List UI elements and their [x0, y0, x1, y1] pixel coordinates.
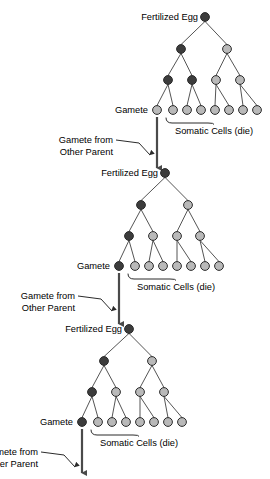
- somatic-cell-node-1: [169, 106, 178, 115]
- other-parent-leader-arrow: [41, 452, 75, 467]
- somatic-cell-node-2: [183, 106, 192, 115]
- generations-group: Fertilized EggGameteSomatic Cells (die)G…: [0, 12, 261, 473]
- somatic-cell-node-3: [197, 106, 206, 115]
- generation-3: Fertilized EggGameteSomatic Cells (die)G…: [0, 324, 186, 473]
- edge-l3-1-to-leaf-a: [112, 396, 116, 417]
- edge-l2-1-to-l3-b: [188, 209, 200, 231]
- edge-l3-1-to-leaf-b: [153, 240, 163, 261]
- somatic-cell-node-5: [225, 106, 234, 115]
- fertilized-egg-label: Fertilized Egg: [65, 324, 122, 334]
- other-parent-label-line2: Other Parent: [22, 303, 76, 313]
- cell-node-level3-1: [149, 232, 158, 241]
- gamete-label: Gamete: [115, 105, 148, 115]
- generation-2: Fertilized EggGameteSomatic Cells (die)G…: [21, 168, 224, 324]
- gamete-label: Gamete: [40, 417, 73, 427]
- edge-root-to-l2-0: [141, 177, 165, 200]
- cell-node-level2-1: [223, 45, 232, 54]
- edge-l2-0-to-l3-b: [141, 209, 153, 231]
- somatic-cell-node-3: [159, 262, 168, 271]
- other-parent-leader-arrow: [116, 140, 150, 155]
- edge-root-to-l2-1: [205, 21, 227, 44]
- edge-root-to-l2-1: [165, 177, 188, 200]
- edge-l3-2-to-leaf-a: [215, 84, 216, 105]
- edge-l3-2-to-leaf-b: [216, 84, 229, 105]
- somatic-cell-node-4: [173, 262, 182, 271]
- diagram-canvas: Fertilized EggGameteSomatic Cells (die)G…: [0, 0, 270, 479]
- edge-l3-0-to-leaf-b: [129, 240, 135, 261]
- edge-l3-0-to-leaf-b: [92, 396, 98, 417]
- somatic-cell-node-6: [164, 418, 173, 427]
- somatic-cell-node-5: [187, 262, 196, 271]
- somatic-cell-node-5: [150, 418, 159, 427]
- somatic-cell-node-7: [215, 262, 224, 271]
- cell-node-level3-0: [88, 388, 97, 397]
- edge-l3-3-to-leaf-b: [164, 396, 182, 417]
- edge-l2-0-to-l3-a: [92, 365, 104, 387]
- edge-l3-1-to-leaf-a: [149, 240, 153, 261]
- edge-l2-0-to-l3-a: [168, 53, 181, 75]
- cell-node-level3-1: [188, 76, 197, 85]
- cell-node-level2-1: [148, 357, 157, 366]
- fertilized-egg-label: Fertilized Egg: [101, 168, 158, 178]
- other-parent-label-line1: Gamete from: [0, 447, 38, 457]
- edge-root-to-l2-0: [181, 21, 205, 44]
- other-parent-leader-arrow: [78, 296, 112, 311]
- generation-1: Fertilized EggGameteSomatic Cells (die)G…: [59, 12, 262, 168]
- cell-node-level3-0: [164, 76, 173, 85]
- edge-l3-0-to-leaf-b: [168, 84, 173, 105]
- cell-node-level2-0: [177, 45, 186, 54]
- somatic-cell-node-1: [131, 262, 140, 271]
- edge-l3-1-to-leaf-b: [116, 396, 126, 417]
- edge-l2-0-to-l3-b: [181, 53, 192, 75]
- edge-l2-0-to-l3-a: [129, 209, 141, 231]
- other-parent-label-line1: Gamete from: [21, 291, 76, 301]
- gamete-node: [78, 418, 87, 427]
- somatic-cell-node-3: [122, 418, 131, 427]
- edge-l2-0-to-l3-b: [104, 365, 116, 387]
- edge-l2-1-to-l3-a: [216, 53, 227, 75]
- cell-node-level2-0: [137, 201, 146, 210]
- somatic-cells-label: Somatic Cells (die): [100, 438, 178, 448]
- cell-node-level3-3: [196, 232, 205, 241]
- edge-l2-1-to-l3-b: [227, 53, 240, 75]
- somatic-cells-bracket: [128, 274, 176, 280]
- somatic-cell-node-7: [253, 106, 262, 115]
- edge-root-to-l2-1: [129, 333, 152, 356]
- somatic-cells-bracket: [91, 430, 139, 436]
- edge-l2-1-to-l3-b: [152, 365, 164, 387]
- edge-l3-2-to-leaf-b: [140, 396, 154, 417]
- edge-l3-0-to-leaf-a: [157, 84, 168, 105]
- cell-node-level3-1: [112, 388, 121, 397]
- somatic-cell-node-2: [145, 262, 154, 271]
- edge-root-to-l2-0: [104, 333, 129, 356]
- fertilized-egg-label: Fertilized Egg: [141, 12, 198, 22]
- edge-l3-0-to-leaf-a: [82, 396, 92, 417]
- edge-l3-3-to-leaf-a: [164, 396, 168, 417]
- edge-l3-1-to-leaf-a: [187, 84, 192, 105]
- edge-l3-2-to-leaf-b: [177, 240, 191, 261]
- cell-lineage-diagram: Fertilized EggGameteSomatic Cells (die)G…: [0, 0, 270, 479]
- gamete-label: Gamete: [77, 261, 110, 271]
- somatic-cell-node-2: [108, 418, 117, 427]
- cell-node-level3-3: [160, 388, 169, 397]
- cell-node-level3-3: [236, 76, 245, 85]
- fertilized-egg-node: [201, 13, 210, 22]
- cell-node-level3-2: [173, 232, 182, 241]
- cell-node-level3-2: [212, 76, 221, 85]
- edge-l2-1-to-l3-a: [177, 209, 188, 231]
- cell-node-level3-0: [125, 232, 134, 241]
- somatic-cell-node-6: [239, 106, 248, 115]
- somatic-cells-label: Somatic Cells (die): [175, 126, 253, 136]
- other-parent-label-line1: Gamete from: [59, 135, 114, 145]
- gamete-node: [153, 106, 162, 115]
- fertilized-egg-node: [125, 325, 134, 334]
- somatic-cells-label: Somatic Cells (die): [137, 282, 215, 292]
- fertilized-egg-node: [161, 169, 170, 178]
- gamete-node: [115, 262, 124, 271]
- other-parent-label-line2: Other Parent: [60, 147, 114, 157]
- cell-node-level2-1: [184, 201, 193, 210]
- cell-node-level2-0: [100, 357, 109, 366]
- edge-l3-0-to-leaf-a: [119, 240, 129, 261]
- somatic-cell-node-1: [94, 418, 103, 427]
- somatic-cell-node-7: [178, 418, 187, 427]
